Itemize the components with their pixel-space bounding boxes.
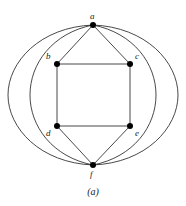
vertex-label-f: f	[90, 170, 93, 179]
vertex-b	[54, 61, 60, 67]
vertex-a	[90, 22, 96, 28]
graph-drawing	[0, 0, 186, 206]
arc-a-f-outer-left	[8, 25, 93, 165]
figure-caption: (a)	[0, 186, 186, 197]
vertex-label-a: a	[90, 12, 95, 21]
arc-a-f-inner-right	[93, 25, 156, 165]
figure-container: abcdef (a)	[0, 0, 186, 206]
arc-a-f-inner-left	[30, 25, 93, 165]
vertex-label-e: e	[135, 129, 139, 138]
vertex-f	[90, 162, 96, 168]
vertex-c	[127, 61, 133, 67]
vertex-d	[54, 123, 60, 129]
straight-edges-group	[57, 25, 130, 165]
edge-d-f	[57, 126, 93, 165]
vertex-label-d: d	[46, 129, 51, 138]
vertices-group	[54, 22, 133, 168]
arc-a-f-outer-right	[93, 25, 178, 165]
edge-a-b	[57, 25, 93, 64]
vertex-label-b: b	[46, 52, 51, 61]
vertex-label-c: c	[135, 52, 139, 61]
vertex-e	[127, 123, 133, 129]
curved-edges-group	[8, 25, 178, 165]
